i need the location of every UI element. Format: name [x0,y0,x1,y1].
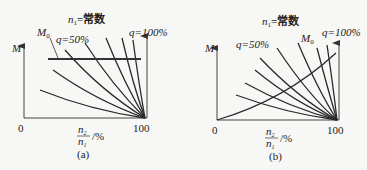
panel-a: n1=常数 M M0 q=50% q=100% 0 100 n2 n1 /% (… [11,12,168,161]
x-origin-label-a: 0 [18,122,24,134]
q50-label-b: q=50% [236,38,269,50]
m0-label-b: M0 [300,32,314,46]
svg-text:/%: /% [92,130,104,142]
x-end-label-a: 100 [133,122,150,134]
x-end-label-b: 100 [327,124,344,136]
caption-b: (b) [269,150,282,163]
panel-b: n1=常数 M M0 q=50% q=100% 0 100 n2 n1 /% (… [204,14,361,163]
svg-text:n1: n1 [78,135,87,148]
q50-label-a: q=50% [56,33,89,45]
y-axis-label-a: M [11,42,22,54]
panel-title-a: n1=常数 [68,12,106,27]
x-axis-label-a: n2 n1 /% [77,123,104,148]
caption-a: (a) [77,148,90,161]
y-axis-label-b: M [204,42,215,54]
q100-label-b: q=100% [322,26,361,38]
svg-text:n1: n1 [266,137,275,150]
q100-label-a: q=100% [129,26,168,38]
slip-curves-a [40,38,145,118]
x-axis-label-b: n2 n1 /% [265,125,292,150]
m0-label-a: M0 [36,26,50,40]
panel-title-b: n1=常数 [262,14,300,29]
x-origin-label-b: 0 [212,124,218,136]
hydraulic-coupling-characteristic-diagram: n1=常数 M M0 q=50% q=100% 0 100 n2 n1 /% (… [0,0,367,170]
svg-text:/%: /% [280,132,292,144]
